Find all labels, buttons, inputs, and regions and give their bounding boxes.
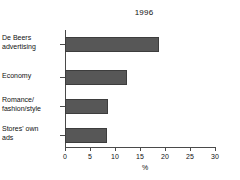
category-tick <box>60 135 65 136</box>
category-label-economy: Economy <box>2 72 58 81</box>
bar-economy <box>65 70 127 85</box>
bar-romance-fashion-style <box>65 99 108 114</box>
x-axis-tick-label: 15 <box>130 153 150 160</box>
bar-chart-figure: 1996 0 5 10 15 20 25 30 De Beers adverti… <box>0 0 240 180</box>
category-label-de-beers-advertising: De Beers advertising <box>2 34 58 51</box>
x-axis-title: % <box>0 164 240 171</box>
x-axis-tick <box>165 147 166 151</box>
x-axis-tick <box>190 147 191 151</box>
x-axis-tick <box>215 147 216 151</box>
category-tick <box>60 77 65 78</box>
x-axis-tick-label: 25 <box>180 153 200 160</box>
category-tick <box>60 44 65 45</box>
x-axis-tick-label: 20 <box>155 153 175 160</box>
plot-area: 0 5 10 15 20 25 30 <box>65 30 215 147</box>
x-axis-tick <box>65 147 66 151</box>
x-axis-tick-label: 10 <box>105 153 125 160</box>
x-axis-tick <box>140 147 141 151</box>
category-label-stores-own-ads: Stores' own ads <box>2 125 58 142</box>
x-axis-tick <box>90 147 91 151</box>
x-axis-tick <box>115 147 116 151</box>
bar-stores-own-ads <box>65 128 107 143</box>
chart-title: 1996 <box>0 8 240 17</box>
category-label-romance-fashion-style: Romance/ fashion/style <box>2 96 58 113</box>
x-axis-tick-label: 5 <box>80 153 100 160</box>
x-axis-tick-label: 30 <box>205 153 225 160</box>
bar-de-beers-advertising <box>65 37 159 52</box>
category-tick <box>60 106 65 107</box>
x-axis-tick-label: 0 <box>55 153 75 160</box>
